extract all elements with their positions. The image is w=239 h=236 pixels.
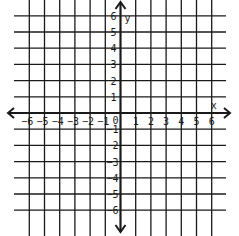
x-axis-label: x: [211, 100, 217, 111]
y-tick-label: 1: [110, 92, 116, 103]
y-tick-label: −2: [106, 140, 118, 151]
x-tick-label: −6: [21, 116, 33, 127]
y-tick-label: −5: [106, 189, 118, 200]
x-tick-label: 2: [148, 116, 154, 127]
x-tick-label: −4: [52, 116, 64, 127]
y-tick-label: −6: [106, 205, 118, 216]
x-tick-label: 1: [133, 116, 139, 127]
y-tick-label: 5: [110, 27, 116, 38]
y-tick-label: 2: [110, 76, 116, 87]
x-tick-label: 3: [163, 116, 169, 127]
coordinate-plane: −6−5−4−3−2−11234560x123456−1−2−3−4−5−6y: [0, 0, 239, 236]
y-tick-label: −1: [106, 124, 118, 135]
y-tick-label: 3: [110, 59, 116, 70]
y-axis-label: y: [124, 13, 130, 24]
y-tick-label: −3: [106, 157, 118, 168]
x-tick-label: −5: [36, 116, 48, 127]
x-tick-label: 4: [178, 116, 184, 127]
y-tick-label: 4: [110, 43, 116, 54]
x-tick-label: −2: [82, 116, 94, 127]
x-tick-label: −3: [67, 116, 79, 127]
x-tick-label: 5: [193, 116, 199, 127]
y-tick-label: 6: [110, 11, 116, 22]
y-tick-label: −4: [106, 173, 118, 184]
x-tick-label: 6: [209, 116, 215, 127]
